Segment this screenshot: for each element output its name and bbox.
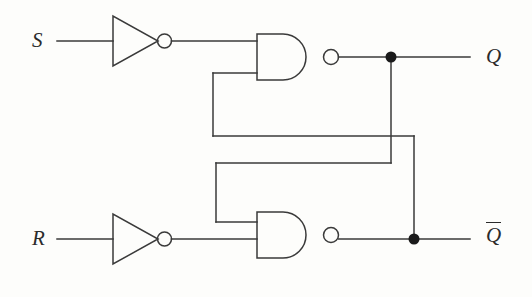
nand-top-bubble [324,50,339,65]
junction-dot-qbar [409,234,420,245]
nand-top-body [257,34,306,80]
inverter-r-triangle [113,214,158,264]
label-input-r: R [32,228,45,249]
junction-dot-q [386,52,397,63]
label-output-qbar: Q [486,222,501,246]
nand-bottom-body [257,212,306,258]
nand-bottom-bubble [324,228,339,243]
label-input-s: S [32,30,43,51]
inverter-r-bubble [158,232,172,246]
inverter-s-triangle [113,16,158,66]
label-output-q: Q [486,46,501,67]
sr-latch-circuit-diagram: S R Q Q [0,0,532,297]
inverter-s-bubble [158,34,172,48]
circuit-schematic [0,0,532,297]
